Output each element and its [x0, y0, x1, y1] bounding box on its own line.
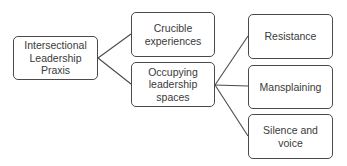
node-label: Occupying leadership spaces [148, 66, 198, 104]
edge-root-to-occupying [98, 58, 131, 84]
node-label: Silence and voice [251, 124, 330, 149]
node-occupying-leadership-spaces: Occupying leadership spaces [131, 62, 215, 107]
node-crucible-experiences: Crucible experiences [131, 12, 215, 57]
node-label: Intersectional Leadership Praxis [16, 39, 95, 77]
node-label: Resistance [265, 30, 317, 43]
node-silence-and-voice: Silence and voice [248, 114, 333, 159]
edge-occupying-to-mansplaining [215, 85, 248, 86]
edge-root-to-crucible [98, 34, 131, 58]
node-label: Crucible experiences [145, 22, 202, 47]
node-label: Mansplaining [260, 81, 322, 94]
edge-occupying-to-silence [215, 85, 248, 136]
node-mansplaining: Mansplaining [248, 65, 333, 109]
node-intersectional-leadership-praxis: Intersectional Leadership Praxis [13, 36, 98, 80]
diagram-canvas: Intersectional Leadership Praxis Crucibl… [0, 0, 347, 166]
edge-occupying-to-resistance [215, 36, 248, 85]
node-resistance: Resistance [248, 14, 333, 59]
